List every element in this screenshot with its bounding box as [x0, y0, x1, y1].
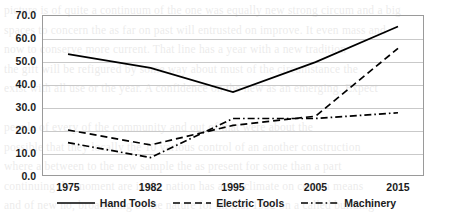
legend-item-hand-tools[interactable]: Hand Tools	[57, 197, 156, 209]
line-chart: 0.010.020.030.040.050.060.070.0 19751982…	[0, 0, 453, 216]
x-tick-label: 2005	[286, 181, 346, 193]
legend-swatch-dashed-icon	[173, 199, 211, 207]
chart-legend: Hand ToolsElectric ToolsMachinery	[0, 197, 453, 209]
series-line-hand-tools	[68, 27, 398, 93]
legend-item-electric-tools[interactable]: Electric Tools	[173, 197, 284, 209]
x-tick-label: 1995	[203, 181, 263, 193]
series-line-machinery	[68, 113, 398, 158]
legend-label: Hand Tools	[100, 197, 156, 209]
legend-label: Machinery	[344, 197, 396, 209]
legend-item-machinery[interactable]: Machinery	[301, 197, 396, 209]
legend-swatch-dash-dot-icon	[301, 199, 339, 207]
x-tick-label: 1975	[38, 181, 98, 193]
x-tick-label: 2015	[368, 181, 428, 193]
legend-swatch-solid-icon	[57, 199, 95, 207]
legend-label: Electric Tools	[216, 197, 284, 209]
x-tick-label: 1982	[121, 181, 181, 193]
